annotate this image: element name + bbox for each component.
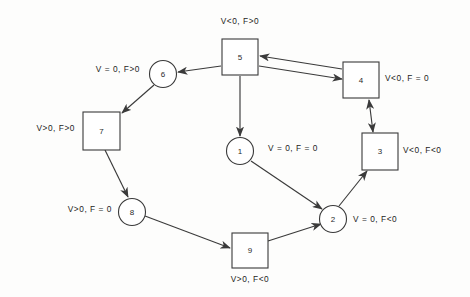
condition-label-node-9: V>0, F<0 (231, 274, 270, 284)
node-2-label: 2 (331, 215, 336, 224)
node-5-label: 5 (238, 53, 243, 62)
condition-label-node-4: V<0, F = 0 (385, 73, 429, 83)
node-5[interactable]: 5 (222, 39, 258, 75)
edge-9-to-2 (268, 224, 321, 241)
node-8[interactable]: 8 (119, 199, 146, 226)
node-7[interactable]: 7 (83, 112, 120, 150)
condition-label-node-5: V<0, F>0 (221, 16, 260, 26)
edge-1-to-2 (251, 161, 322, 209)
edge-2-to-3 (339, 171, 367, 206)
node-3[interactable]: 3 (362, 133, 398, 170)
edge-4-to-5 (260, 56, 342, 69)
condition-label-node-8: V>0, F = 0 (68, 204, 112, 214)
node-4[interactable]: 4 (343, 62, 379, 98)
edge-3-to-4 (369, 100, 373, 132)
node-9[interactable]: 9 (232, 233, 268, 268)
node-1-label: 1 (238, 147, 243, 156)
node-9-label: 9 (248, 246, 253, 255)
node-6-label: 6 (161, 70, 166, 79)
condition-label-node-7: V>0, F>0 (36, 123, 75, 133)
node-2[interactable]: 2 (320, 206, 347, 233)
diagram-canvas: 123456789 V = 0, F = 0V = 0, F<0V<0, F<0… (0, 0, 470, 297)
node-3-label: 3 (378, 147, 383, 156)
condition-label-node-1: V = 0, F = 0 (268, 143, 318, 153)
node-1[interactable]: 1 (227, 138, 254, 165)
edge-8-to-9 (145, 216, 230, 248)
edge-5-to-4 (259, 66, 342, 79)
condition-label-node-3: V<0, F<0 (403, 145, 442, 155)
edge-5-to-6 (178, 66, 221, 72)
node-8-label: 8 (130, 208, 135, 217)
node-7-label: 7 (99, 127, 104, 136)
node-6[interactable]: 6 (150, 61, 177, 88)
condition-label-node-6: V = 0, F>0 (96, 64, 140, 74)
edge-7-to-8 (105, 150, 128, 197)
condition-label-node-2: V = 0, F<0 (353, 214, 397, 224)
state-transition-diagram: 123456789 V = 0, F = 0V = 0, F<0V<0, F<0… (0, 0, 470, 297)
node-4-label: 4 (359, 76, 364, 85)
edge-6-to-7 (122, 85, 154, 113)
